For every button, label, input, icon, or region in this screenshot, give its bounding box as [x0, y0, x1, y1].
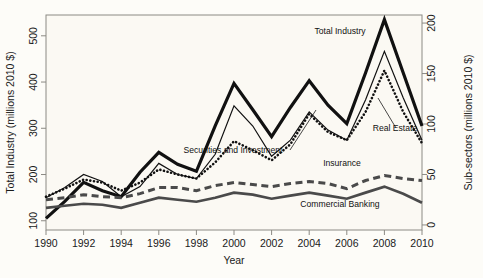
- x-tick-label: 2008: [373, 237, 397, 249]
- y-axis-title-left: Total Industry (millions 2010 $): [4, 51, 16, 193]
- x-tick-label: 2000: [222, 237, 246, 249]
- x-tick-label: 1994: [110, 237, 134, 249]
- x-tick-label: 1992: [72, 237, 96, 249]
- y-tick-label-left: 500: [27, 27, 39, 45]
- x-tick-label: 1996: [147, 237, 171, 249]
- x-tick-label: 2004: [298, 237, 322, 249]
- y-tick-label-right: 200: [425, 14, 437, 32]
- x-axis-title: Year: [223, 254, 245, 266]
- series-annotation-insurance: Insurance: [323, 158, 361, 168]
- series-annotation-total-industry: Total Industry: [314, 26, 366, 36]
- y-tick-label-left: 200: [27, 166, 39, 184]
- x-tick-label: 1998: [185, 237, 209, 249]
- x-tick-label: 2002: [260, 237, 284, 249]
- y-tick-label-left: 100: [27, 212, 39, 230]
- series-annotation-securities-and-investment: Securities and Investment: [184, 145, 283, 155]
- x-tick-label: 2010: [410, 237, 434, 249]
- series-annotation-real-estate: Real Estate: [373, 123, 418, 133]
- y-tick-label-left: 400: [27, 73, 39, 91]
- y-tick-label-right: 0: [425, 222, 437, 228]
- y-axis-title-right: Sub-sectors (millions 2010 $): [462, 55, 474, 191]
- y-tick-label-right: 150: [425, 65, 437, 83]
- y-tick-label-right: 50: [425, 168, 437, 180]
- y-tick-label-left: 300: [27, 119, 39, 137]
- series-annotation-commercial-banking: Commercial Banking: [300, 199, 380, 209]
- x-tick-label: 2006: [335, 237, 359, 249]
- y-tick-label-right: 100: [425, 115, 437, 133]
- x-tick-label: 1990: [34, 237, 58, 249]
- chart-figure: 1990199219941996199820002002200420062008…: [0, 0, 483, 278]
- line-chart: 1990199219941996199820002002200420062008…: [0, 0, 483, 278]
- plot-area: [46, 15, 422, 230]
